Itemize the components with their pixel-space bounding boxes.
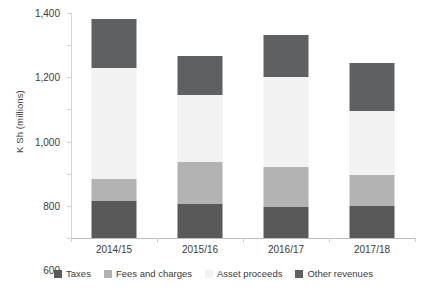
- bar-stack[interactable]: [178, 56, 223, 238]
- bar-segment[interactable]: [350, 175, 395, 206]
- chart-legend: TaxesFees and chargesAsset proceedsOther…: [0, 268, 427, 279]
- y-tick-label: 800: [43, 200, 60, 211]
- bar-segment[interactable]: [92, 19, 137, 67]
- bar-segment[interactable]: [92, 201, 137, 238]
- x-axis-category-label: 2014/15: [71, 244, 157, 255]
- bar-segment[interactable]: [178, 56, 223, 95]
- legend-label: Fees and charges: [116, 268, 192, 279]
- bar-stack[interactable]: [350, 63, 395, 238]
- legend-item[interactable]: Other revenues: [295, 268, 372, 279]
- bar-segment[interactable]: [92, 179, 137, 202]
- y-axis-title: K Sh (millions): [14, 62, 25, 182]
- legend-item[interactable]: Asset proceeds: [205, 268, 282, 279]
- legend-swatch-icon: [54, 270, 62, 278]
- bar-segment[interactable]: [264, 207, 309, 238]
- x-tick-mark: [329, 238, 330, 242]
- x-tick-mark: [243, 238, 244, 242]
- legend-label: Asset proceeds: [217, 268, 282, 279]
- x-tick-mark: [415, 238, 416, 242]
- y-tick-label: 1,200: [35, 72, 60, 83]
- bar-group: [157, 13, 243, 238]
- legend-swatch-icon: [295, 270, 303, 278]
- y-tick-label: 1,400: [35, 8, 60, 19]
- stacked-bar-chart: K Sh (millions) 02004006008001,0001,2001…: [0, 0, 427, 292]
- bar-segment[interactable]: [178, 95, 223, 163]
- bar-segment[interactable]: [350, 206, 395, 238]
- legend-item[interactable]: Taxes: [54, 268, 91, 279]
- bar-group: [329, 13, 415, 238]
- bar-segment[interactable]: [350, 63, 395, 111]
- x-tick-mark: [71, 238, 72, 242]
- bar-segment[interactable]: [178, 162, 223, 204]
- x-axis-category-label: 2016/17: [243, 244, 329, 255]
- legend-label: Taxes: [66, 268, 91, 279]
- legend-swatch-icon: [205, 270, 213, 278]
- bar-segment[interactable]: [92, 68, 137, 179]
- bar-segment[interactable]: [264, 35, 309, 78]
- legend-label: Other revenues: [307, 268, 372, 279]
- legend-item[interactable]: Fees and charges: [104, 268, 192, 279]
- bar-stack[interactable]: [264, 35, 309, 238]
- bar-segment[interactable]: [178, 204, 223, 238]
- x-axis-category-label: 2017/18: [329, 244, 415, 255]
- y-tick-label: 1,000: [35, 136, 60, 147]
- x-tick-mark: [157, 238, 158, 242]
- x-axis-category-label: 2015/16: [157, 244, 243, 255]
- bar-group: [71, 13, 157, 238]
- bar-stack[interactable]: [92, 19, 137, 238]
- bar-segment[interactable]: [264, 77, 309, 167]
- legend-swatch-icon: [104, 270, 112, 278]
- bar-segment[interactable]: [264, 167, 309, 206]
- bar-group: [243, 13, 329, 238]
- plot-area: 02004006008001,0001,2001,400 2014/152015…: [71, 13, 415, 238]
- bar-segment[interactable]: [350, 111, 395, 175]
